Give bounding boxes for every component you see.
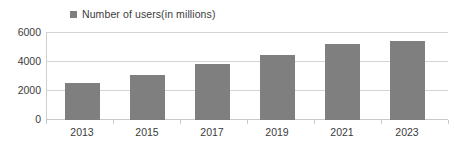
x-tick-mark-0 (46, 120, 47, 124)
x-tick-label-2021: 2021 (312, 126, 372, 139)
x-tick-mark-4 (314, 120, 315, 124)
x-tick-mark-5 (381, 120, 382, 124)
bar-2023 (390, 41, 425, 120)
x-tick-label-2015: 2015 (117, 126, 177, 139)
x-tick-label-2017: 2017 (182, 126, 242, 139)
x-tick-mark-2 (180, 120, 181, 124)
bar-2019 (260, 55, 295, 120)
legend-swatch-icon (70, 11, 77, 18)
x-tick-label-2023: 2023 (377, 126, 437, 139)
bar-2015 (130, 75, 165, 120)
y-tick-label-0: 0 (1, 114, 41, 125)
plot-area (46, 32, 448, 120)
chart-legend: Number of users(in millions) (70, 7, 216, 21)
x-tick-mark-1 (113, 120, 114, 124)
bar-2021 (325, 44, 360, 120)
y-axis-labels: 6000 4000 2000 0 (0, 0, 41, 149)
x-tick-mark-6 (448, 120, 449, 124)
x-tick-label-2019: 2019 (247, 126, 307, 139)
x-tick-label-2013: 2013 (52, 126, 112, 139)
y-tick-label-4000: 4000 (1, 56, 41, 67)
bar-chart: Number of users(in millions) 6000 4000 2… (0, 0, 454, 149)
bar-2017 (195, 64, 230, 120)
y-tick-label-2000: 2000 (1, 85, 41, 96)
x-axis-labels: 2013 2015 2017 2019 2021 2023 (46, 126, 448, 142)
bar-group (46, 32, 448, 120)
bar-2013 (65, 83, 100, 120)
legend-label-number-of-users: Number of users(in millions) (82, 8, 216, 20)
y-tick-label-6000: 6000 (1, 27, 41, 38)
x-tick-mark-3 (247, 120, 248, 124)
